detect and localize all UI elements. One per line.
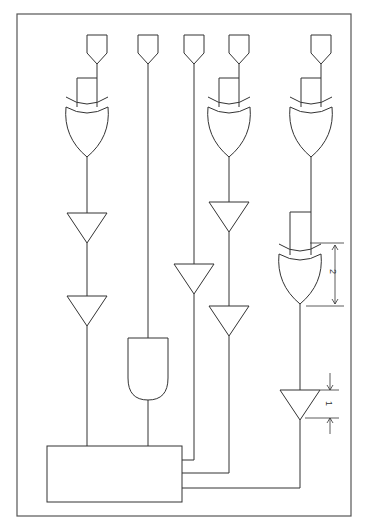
- xor-gate-1: [66, 97, 109, 157]
- input-pin-4: [229, 35, 249, 64]
- buffer-3: [174, 264, 214, 294]
- dimension-label-1: 1: [324, 401, 334, 406]
- xor-gate-5b: [279, 244, 322, 304]
- dimension-label-2: 2: [328, 269, 338, 274]
- column-4: [182, 64, 250, 473]
- buffer-5: [280, 390, 320, 420]
- buffer-1a: [67, 213, 107, 243]
- buffer-1b: [67, 296, 107, 326]
- buffer-4b: [209, 306, 249, 336]
- circuit-diagram: 2 1: [0, 0, 365, 528]
- dimension-buffer-height: 1: [305, 373, 339, 434]
- and-gate: [128, 338, 168, 400]
- column-5: [182, 64, 332, 488]
- column-1: [66, 64, 109, 446]
- input-pin-2: [138, 35, 158, 64]
- xor-gate-5: [290, 97, 333, 157]
- dimension-xor-height: 2: [306, 243, 344, 306]
- output-block: [47, 446, 182, 502]
- input-pin-3: [184, 35, 204, 64]
- input-pin-5: [311, 35, 331, 64]
- xor-gate-4: [208, 97, 251, 157]
- buffer-4a: [209, 202, 249, 232]
- column-2: [128, 64, 168, 446]
- input-pin-1: [87, 35, 107, 64]
